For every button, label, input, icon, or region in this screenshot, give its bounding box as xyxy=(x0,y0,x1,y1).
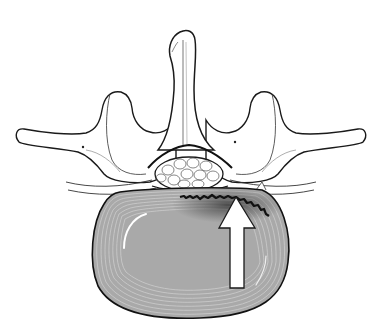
vertebra-illustration: Lumbar vertebra, axial (top-down) view w… xyxy=(0,0,386,332)
left-transverse-process xyxy=(16,92,176,195)
right-transverse-process xyxy=(206,92,366,195)
